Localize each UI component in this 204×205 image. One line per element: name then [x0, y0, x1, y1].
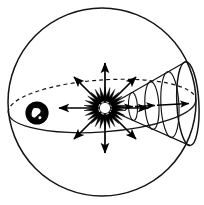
earth-disc	[28, 104, 47, 123]
figure-root: Solar radiation cone within celestial sp…	[0, 0, 204, 205]
cone-axis-arrow-2	[135, 105, 155, 106]
diagram-canvas: Solar radiation cone within celestial sp…	[0, 0, 204, 205]
sun-core-inner	[99, 102, 110, 113]
